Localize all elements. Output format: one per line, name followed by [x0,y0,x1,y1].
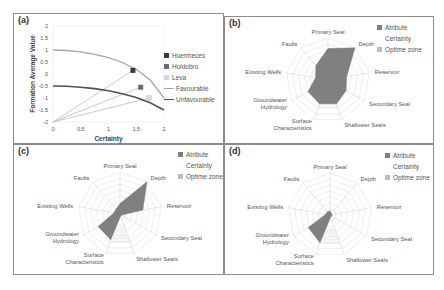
radar-axis-label: Existing Wells [247,204,283,210]
radar-axis-label: Reservoir [377,204,402,210]
radar-axis-label: Groundwater [45,231,79,237]
legend-marker-swatch [164,64,169,69]
legend-label: Certainty [393,161,419,172]
y-tick-label: 0.5 [40,59,48,65]
huidobro-marker [138,85,143,90]
x-tick-label: 1 [107,126,110,132]
y-tick-label: -0.5 [39,83,48,89]
panel-d-radar-chart: (d) Primary SealDepthReservoirSecondary … [224,144,434,275]
panel-b-radar-chart: (b) Primary SealDepthReservoirSecondary … [224,16,434,144]
radar-axis-label: Characteristics [65,259,103,265]
legend-item: Optime zone [385,172,430,183]
radar-axis-label: Depth [359,41,374,47]
y-tick-label: -2 [43,119,48,125]
radar-axis-label: Characteristics [273,125,311,131]
radar-axis-label: Groundwater [255,232,289,238]
legend-marker-swatch [164,53,169,58]
huermeces-marker [130,68,135,73]
legend-item: Optime zone [377,44,422,55]
y-tick-label: 1.5 [40,35,48,41]
legend-item: Leva [164,72,215,83]
legend-item: Certainty [385,161,430,172]
legend-item: Optime zone [178,171,223,182]
chart-legend-c: AtributeCertaintyOptime zone [178,149,223,182]
radar-axis-label: Shallower Seals [346,257,388,263]
radar-axis-label: Depth [151,175,166,181]
attribute-polygon [308,48,355,104]
certainty-swatch [377,36,382,41]
panel-a-line-chart: (a) 21.510.50-0.5-1-1.5-200.511.52Certai… [13,13,224,144]
radar-axis-label: Reservoir [167,203,192,209]
legend-item: Certainty [377,33,422,44]
x-tick-label: 0 [51,126,54,132]
radar-axis-label: Existing Wells [37,203,73,209]
legend-label: Favourable [176,83,209,94]
optime-zone-swatch [385,175,390,180]
legend-item: Atribute [178,149,223,160]
radar-axis-label: Faults [74,175,90,181]
y-tick-label: -1 [43,95,48,101]
legend-item: Atribute [377,22,422,33]
panel-c-radar-chart: (c) Primary SealDepthReservoirSecondary … [13,144,224,275]
legend-label: Atribute [393,150,415,161]
radar-axis-label: Surface [292,118,312,124]
y-axis-label: Formation Average Value [29,35,37,113]
legend-marker-swatch [164,75,169,80]
chart-legend-a: HuermecesHuidobroLevaFavourableUnfavoura… [164,50,215,105]
optime-zone-swatch [178,174,183,179]
radar-spoke [330,183,357,215]
legend-item: Huidobro [164,61,215,72]
legend-item: Certainty [178,160,223,171]
attribute-swatch [178,152,183,157]
attribute-swatch [377,25,382,30]
y-tick-label: 2 [45,23,48,29]
optime-zone-swatch [377,47,382,52]
chart-legend-d: AtributeCertaintyOptime zone [385,150,430,183]
chart-legend-b: AtributeCertaintyOptime zone [377,22,422,55]
radar-axis-label: Groundwater [253,97,287,103]
x-tick-label: 2 [162,126,165,132]
legend-label: Leva [172,72,186,83]
legend-label: Optime zone [186,171,223,182]
radar-axis-label: Surface [84,252,104,258]
x-axis-label: Certainty [94,135,123,143]
x-tick-label: 0.5 [77,126,85,132]
radar-axis-label: Hydrology [263,239,289,245]
legend-label: Atribute [385,22,407,33]
radar-axis-label: Characteristics [275,260,313,266]
legend-label: Huermeces [172,50,205,61]
legend-label: Optime zone [385,44,422,55]
legend-label: Optime zone [393,172,430,183]
legend-label: Certainty [186,160,212,171]
certainty-swatch [385,164,390,169]
radar-axis-label: Secondary Seal [161,235,202,241]
radar-axis-label: Secondary Seal [371,236,412,242]
radar-axis-label: Hydrology [261,104,287,110]
legend-item: Atribute [385,150,430,161]
radar-axis-label: Secondary Seal [369,101,410,107]
legend-label: Atribute [186,149,208,160]
radar-axis-label: Depth [361,176,376,182]
radar-axis-label: Primary Seal [313,164,346,170]
radar-axis-label: Faults [282,41,298,47]
legend-label: Unfavourable [176,94,215,105]
radar-axis-label: Surface [294,253,314,259]
y-tick-label: 1 [45,47,48,53]
radar-axis-label: Hydrology [53,238,79,244]
radar-axis-label: Primary Seal [311,29,344,35]
legend-line-swatch [164,99,174,100]
leva-marker [147,96,152,101]
legend-line-swatch [164,88,174,89]
y-tick-label: -1.5 [39,107,48,113]
radar-axis-label: Shallower Seals [136,256,178,262]
plot-area [53,26,164,122]
radar-axis-label: Primary Seal [103,163,136,169]
radar-spoke [303,183,330,215]
attribute-swatch [385,153,390,158]
radar-axis-label: Reservoir [375,69,400,75]
radar-axis-label: Shallower Seals [344,122,386,128]
radar-axis-label: Existing Wells [245,69,281,75]
y-tick-label: 0 [45,71,48,77]
legend-item: Huermeces [164,50,215,61]
radar-axis-label: Faults [284,176,300,182]
